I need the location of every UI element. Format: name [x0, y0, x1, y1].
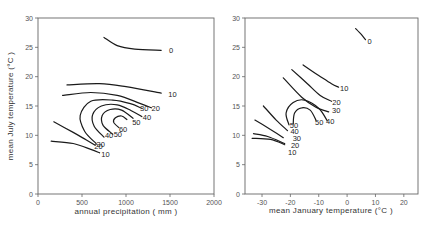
contour-line-20	[292, 70, 332, 102]
contour-line-10	[67, 84, 161, 93]
x-tick-label: -30	[257, 199, 267, 206]
x-tick-label: -20	[285, 199, 295, 206]
y-tick-label: 30	[232, 15, 240, 22]
left-contour-lines: 01010202030405060405030	[51, 37, 176, 158]
contour-label: 30	[140, 104, 148, 113]
contour-label: 10	[288, 148, 296, 157]
contour-label: 10	[340, 84, 348, 93]
left-y-axis-label: mean July temperature (°C )	[6, 52, 15, 161]
contour-label: 30	[332, 106, 340, 115]
right-contour-lines: 010203040505040302010	[252, 29, 372, 157]
left-y-axis: 051015202530	[25, 15, 38, 198]
contour-line-0	[104, 37, 161, 50]
y-tick-label: 0	[236, 191, 240, 198]
y-tick-label: 5	[29, 161, 33, 168]
contour-label: 20	[152, 104, 160, 113]
contour-label: 40	[105, 131, 113, 140]
y-tick-label: 25	[232, 44, 240, 51]
y-tick-label: 30	[25, 15, 33, 22]
contour-line-0	[356, 29, 366, 40]
left-x-axis-label: annual precipitation ( mm )	[75, 207, 178, 216]
contour-figure: 051015202530 0500100015002000 0101020203…	[0, 0, 432, 226]
contour-label: 30	[97, 140, 105, 149]
x-tick-label: 2000	[206, 199, 222, 206]
y-tick-label: 25	[25, 44, 33, 51]
right-y-axis: 051015202530	[232, 15, 245, 198]
x-tick-label: 20	[400, 199, 408, 206]
contour-label: 50	[114, 130, 122, 139]
contour-label: 50	[315, 118, 323, 127]
x-tick-label: 10	[372, 199, 380, 206]
x-tick-label: 500	[76, 199, 88, 206]
x-tick-label: 0	[36, 199, 40, 206]
contour-label: 10	[168, 90, 176, 99]
y-tick-label: 10	[232, 132, 240, 139]
contour-label: 50	[132, 118, 140, 127]
y-tick-label: 0	[29, 191, 33, 198]
y-tick-label: 10	[25, 132, 33, 139]
x-tick-label: 1500	[162, 199, 178, 206]
y-tick-label: 15	[232, 103, 240, 110]
left-x-axis: 0500100015002000	[36, 194, 222, 206]
x-tick-label: -10	[314, 199, 324, 206]
contour-label: 0	[169, 46, 173, 55]
right-x-axis: -30-20-1001020	[257, 194, 408, 206]
y-tick-label: 5	[236, 161, 240, 168]
left-chart-panel: 051015202530 0500100015002000 0101020203…	[6, 15, 222, 217]
y-tick-label: 15	[25, 103, 33, 110]
contour-label: 40	[143, 113, 151, 122]
x-tick-label: 0	[345, 199, 349, 206]
y-tick-label: 20	[232, 73, 240, 80]
right-x-axis-label: mean January temperature (°C )	[269, 206, 393, 215]
right-chart-panel: 051015202530 -30-20-1001020 010203040505…	[232, 15, 418, 216]
left-plot-frame	[38, 18, 214, 194]
contour-label: 0	[368, 37, 372, 46]
contour-label: 40	[326, 117, 334, 126]
y-tick-label: 20	[25, 73, 33, 80]
x-tick-label: 1000	[118, 199, 134, 206]
